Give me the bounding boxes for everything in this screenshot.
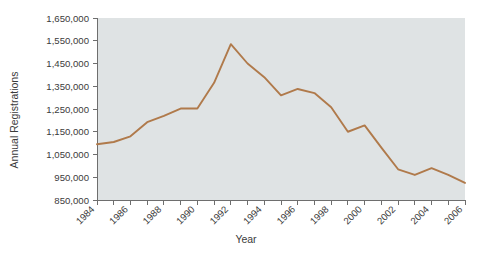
y-tick-label: 1,150,000 bbox=[46, 126, 89, 137]
x-tick-label: 1992 bbox=[207, 204, 230, 227]
x-tick-label: 1994 bbox=[241, 203, 264, 226]
x-tick-label: 1986 bbox=[107, 204, 130, 227]
chart-figure: 850,000950,0001,050,0001,150,0001,250,00… bbox=[0, 0, 481, 254]
y-tick-label: 1,050,000 bbox=[46, 149, 89, 160]
x-axis: 1984198619881990199219941996199820002002… bbox=[74, 200, 465, 227]
x-tick-label: 1988 bbox=[140, 204, 163, 227]
x-tick-label: 1996 bbox=[274, 204, 297, 227]
y-tick-label: 1,250,000 bbox=[46, 104, 89, 115]
y-tick-label: 950,000 bbox=[54, 172, 89, 183]
y-tick-label: 1,550,000 bbox=[46, 35, 89, 46]
x-tick-label: 1984 bbox=[74, 203, 97, 226]
line-chart: 850,000950,0001,050,0001,150,0001,250,00… bbox=[0, 0, 481, 254]
x-tick-label: 2000 bbox=[341, 204, 364, 227]
x-tick-label: 2004 bbox=[408, 203, 431, 226]
x-tick-label: 2006 bbox=[442, 204, 465, 227]
x-tick-label: 1990 bbox=[174, 204, 197, 227]
x-tick-label: 2002 bbox=[375, 204, 398, 227]
y-tick-label: 1,350,000 bbox=[46, 81, 89, 92]
y-tick-label: 850,000 bbox=[54, 195, 89, 206]
y-tick-label: 1,450,000 bbox=[46, 58, 89, 69]
y-axis-title: Annual Registrations bbox=[8, 72, 20, 169]
x-tick-label: 1998 bbox=[308, 204, 331, 227]
y-tick-label: 1,650,000 bbox=[46, 13, 89, 24]
y-axis: 850,000950,0001,050,0001,150,0001,250,00… bbox=[46, 13, 97, 206]
x-axis-title: Year bbox=[235, 233, 257, 245]
